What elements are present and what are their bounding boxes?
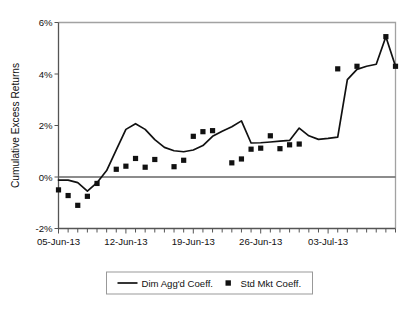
data-marker [258, 146, 263, 151]
data-marker [181, 158, 186, 163]
data-marker [268, 133, 273, 138]
data-marker [66, 193, 71, 198]
data-marker [277, 146, 282, 151]
chart-legend: Dim Agg'd Coeff.Std Mkt Coeff. [107, 272, 313, 294]
data-marker [210, 128, 215, 133]
series-markers-std-mkt-coeff [56, 34, 398, 208]
plot-frame [59, 23, 396, 229]
data-marker [383, 34, 388, 39]
x-tick-label: 19-Jun-13 [172, 236, 215, 247]
data-marker [94, 181, 99, 186]
data-marker [248, 147, 253, 152]
data-marker [191, 134, 196, 139]
data-marker [171, 164, 176, 169]
x-tick-label: 05-Jun-13 [37, 236, 80, 247]
data-marker [200, 129, 205, 134]
y-tick-label: 6% [39, 17, 53, 28]
data-marker [152, 157, 157, 162]
data-marker [239, 156, 244, 161]
data-marker [75, 203, 80, 208]
x-tick-label: 26-Jun-13 [239, 236, 282, 247]
x-tick-label: 12-Jun-13 [104, 236, 147, 247]
data-marker [85, 194, 90, 199]
data-marker [56, 187, 61, 192]
y-axis-title-text: Cumulative Excess Returns [10, 63, 21, 188]
y-tick-label: 4% [39, 69, 53, 80]
x-axis-tick-labels: 05-Jun-1312-Jun-1319-Jun-1326-Jun-1303-J… [37, 236, 348, 247]
data-marker [393, 64, 398, 69]
chart-figure: 6%4%2%0%-2% 05-Jun-1312-Jun-1319-Jun-132… [0, 0, 419, 316]
data-marker [354, 64, 359, 69]
data-marker [229, 160, 234, 165]
y-tick-label: -2% [35, 223, 53, 234]
data-marker [133, 156, 138, 161]
data-marker [123, 164, 128, 169]
x-tick-label: 03-Jul-13 [308, 236, 348, 247]
legend-label-dim-aggd-coeff: Dim Agg'd Coeff. [142, 278, 214, 289]
x-axis-ticks [59, 229, 396, 234]
data-marker [335, 66, 340, 71]
legend-square-swatch [226, 280, 231, 285]
y-axis-tick-labels: 6%4%2%0%-2% [35, 17, 53, 234]
data-marker [297, 141, 302, 146]
cumulative-excess-returns-chart: 6%4%2%0%-2% 05-Jun-1312-Jun-1319-Jun-132… [0, 0, 419, 316]
data-marker [287, 142, 292, 147]
y-tick-label: 2% [39, 120, 53, 131]
data-marker [114, 167, 119, 172]
data-marker [143, 165, 148, 170]
series-line-dim-aggd-coeff [59, 37, 396, 192]
y-tick-label: 0% [39, 172, 53, 183]
legend-label-std-mkt-coeff: Std Mkt Coeff. [241, 278, 302, 289]
line-path [59, 37, 396, 192]
y-axis-title: Cumulative Excess Returns [10, 63, 21, 188]
